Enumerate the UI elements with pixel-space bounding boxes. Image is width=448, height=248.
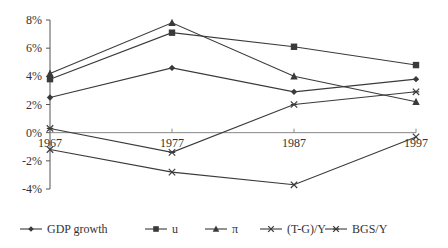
series-line xyxy=(50,92,416,153)
y-tick-label: 8% xyxy=(26,13,42,27)
legend: GDP growthuπ(T-G)/YBGS/Y xyxy=(20,222,388,236)
triangle-marker xyxy=(46,70,53,77)
line-chart: 8%6%4%2%0%-2%-4%1967197719871997 GDP gro… xyxy=(0,0,448,248)
series-gdp-growth xyxy=(47,65,419,101)
diamond-marker xyxy=(169,65,175,71)
series--t-g-y xyxy=(47,134,419,188)
x-tick-label: 1967 xyxy=(38,136,62,150)
series-lines xyxy=(46,19,419,188)
diamond-marker xyxy=(291,89,297,95)
legend-label: π xyxy=(232,222,238,236)
y-tick-label: 6% xyxy=(26,41,42,55)
series-- xyxy=(46,19,419,105)
legend-label: GDP growth xyxy=(47,222,108,236)
series-line xyxy=(50,68,416,98)
legend-item: (T-G)/Y xyxy=(260,222,326,236)
square-marker xyxy=(169,29,175,35)
series-line xyxy=(50,33,416,79)
axes: 8%6%4%2%0%-2%-4%1967197719871997 xyxy=(22,13,428,196)
series-u xyxy=(47,29,419,82)
asterisk-marker xyxy=(333,226,339,232)
chart-canvas: 8%6%4%2%0%-2%-4%1967197719871997 GDP gro… xyxy=(0,0,448,248)
asterisk-marker xyxy=(169,149,175,155)
asterisk-marker xyxy=(413,89,419,95)
square-marker xyxy=(47,76,53,82)
legend-item: u xyxy=(145,222,178,236)
legend-label: (T-G)/Y xyxy=(287,222,326,236)
series-line xyxy=(50,137,416,185)
legend-item: GDP growth xyxy=(20,222,108,236)
diamond-marker xyxy=(47,94,53,100)
legend-item: BGS/Y xyxy=(325,222,388,236)
series-line xyxy=(50,23,416,102)
diamond-marker xyxy=(28,226,34,232)
y-tick-label: -2% xyxy=(22,154,42,168)
asterisk-marker xyxy=(291,101,297,107)
legend-label: u xyxy=(172,222,178,236)
diamond-marker xyxy=(413,76,419,82)
triangle-marker xyxy=(168,19,175,26)
x-tick-label: 1987 xyxy=(282,136,306,150)
square-marker xyxy=(153,226,159,232)
triangle-marker xyxy=(290,72,297,79)
x-tick-label: 1997 xyxy=(404,136,428,150)
x-tick-label: 1977 xyxy=(160,136,184,150)
y-tick-label: 4% xyxy=(26,69,42,83)
y-tick-label: 2% xyxy=(26,98,42,112)
square-marker xyxy=(413,62,419,68)
legend-label: BGS/Y xyxy=(352,222,388,236)
legend-item: π xyxy=(205,222,238,236)
square-marker xyxy=(291,44,297,50)
y-tick-label: -4% xyxy=(22,182,42,196)
series-bgs-y xyxy=(47,89,419,156)
